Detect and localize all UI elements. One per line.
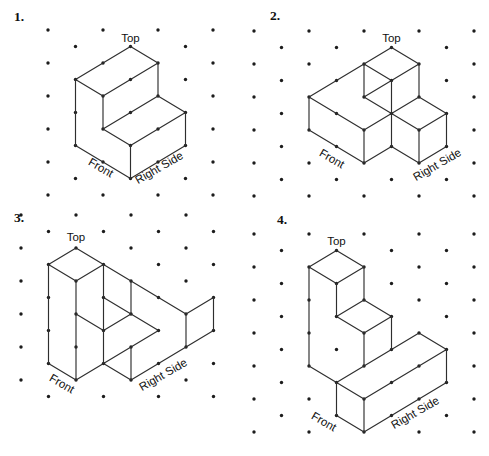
grid-dot: [307, 62, 310, 65]
figure-edge: [392, 114, 420, 131]
grid-dot: [335, 348, 338, 351]
grid-dot: [280, 282, 283, 285]
grid-dot: [472, 161, 475, 164]
grid-dot: [252, 194, 255, 197]
grid-dot: [445, 249, 448, 252]
figure-edge: [364, 48, 392, 65]
grid-dot: [252, 397, 255, 400]
grid-dot: [19, 279, 22, 282]
grid-dot: [184, 177, 187, 180]
figure-edge: [104, 364, 132, 381]
grid-dot: [307, 194, 310, 197]
figure-edge: [364, 64, 392, 81]
grid-dot: [445, 315, 448, 318]
right-side-label: Right Side: [137, 356, 189, 393]
grid-dot: [19, 378, 22, 381]
grid-dot: [19, 345, 22, 348]
figure-edge: [364, 147, 392, 164]
grid-dot: [252, 331, 255, 334]
figure-edge: [392, 147, 420, 164]
grid-dot: [47, 230, 50, 233]
grid-dot: [472, 397, 475, 400]
grid-dot: [362, 29, 365, 32]
grid-dot: [307, 397, 310, 400]
grid-dot: [252, 95, 255, 98]
grid-dot: [211, 193, 214, 196]
grid-dot: [335, 46, 338, 49]
grid-dot: [129, 246, 132, 249]
grid-dot: [157, 230, 160, 233]
grid-dot: [472, 265, 475, 268]
front-label: Front: [309, 410, 339, 434]
grid-dot: [101, 193, 104, 196]
figure-edge: [364, 114, 392, 131]
figure-edge: [76, 80, 104, 97]
grid-dot: [156, 28, 159, 31]
grid-dot: [19, 312, 22, 315]
grid-dot: [417, 29, 420, 32]
grid-dot: [335, 178, 338, 181]
isometric-worksheet: 1.TopFrontRight Side2.TopFrontRight Side…: [0, 0, 489, 456]
grid-dot: [472, 232, 475, 235]
grid-dot: [472, 95, 475, 98]
grid-dot: [417, 232, 420, 235]
figure-number: 3.: [14, 210, 24, 225]
grid-dot: [252, 128, 255, 131]
figure-edge: [76, 265, 104, 282]
top-label: Top: [121, 32, 140, 44]
grid-dot: [46, 28, 49, 31]
figure-number: 4.: [277, 212, 287, 227]
figure-edge: [364, 350, 447, 400]
figure-edge: [419, 114, 447, 131]
worksheet-svg: 1.TopFrontRight Side2.TopFrontRight Side…: [0, 0, 489, 456]
grid-dot: [184, 246, 187, 249]
grid-dot: [157, 263, 160, 266]
figure-edge: [186, 331, 214, 348]
grid-dot: [390, 249, 393, 252]
figure-edge: [419, 97, 447, 114]
figure-1: 1.TopFrontRight Side: [14, 9, 215, 197]
grid-dot: [307, 430, 310, 433]
figure-edge: [392, 97, 420, 114]
figure-edge: [337, 416, 365, 433]
figure-edge: [103, 63, 158, 96]
grid-dot: [46, 193, 49, 196]
grid-dot: [102, 395, 105, 398]
figure-edge: [76, 248, 104, 265]
figure-edge: [337, 317, 365, 334]
figure-edge: [337, 300, 365, 317]
grid-dot: [445, 79, 448, 82]
grid-dot: [307, 29, 310, 32]
grid-dot: [280, 112, 283, 115]
grid-dot: [417, 298, 420, 301]
grid-dot: [211, 94, 214, 97]
figure-edge: [364, 97, 392, 114]
figure-edge: [309, 97, 364, 130]
figure-edge: [49, 265, 77, 282]
figure-edge: [337, 251, 365, 268]
grid-dot: [74, 177, 77, 180]
grid-dot: [252, 265, 255, 268]
grid-dot: [211, 160, 214, 163]
grid-dot: [184, 213, 187, 216]
figure-edge: [131, 113, 186, 146]
grid-dot: [445, 414, 448, 417]
grid-dot: [46, 160, 49, 163]
figure-4: 4.TopFrontRight Side: [252, 212, 475, 434]
grid-dot: [362, 194, 365, 197]
figure-edge: [104, 265, 187, 315]
grid-dot: [280, 348, 283, 351]
grid-dot: [280, 46, 283, 49]
grid-dot: [472, 364, 475, 367]
grid-dot: [184, 45, 187, 48]
figure-edge: [364, 317, 392, 334]
top-label: Top: [67, 231, 86, 243]
grid-dot: [445, 282, 448, 285]
grid-dot: [184, 279, 187, 282]
figure-edge: [76, 331, 159, 381]
figure-edge: [104, 314, 132, 331]
grid-dot: [472, 194, 475, 197]
grid-dot: [19, 246, 22, 249]
figure-edge: [309, 251, 337, 268]
figure-edge: [186, 298, 214, 315]
